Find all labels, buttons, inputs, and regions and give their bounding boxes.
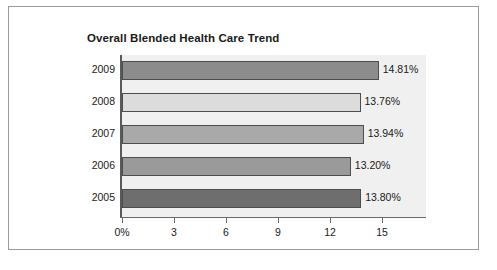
- bar-value-label: 13.80%: [365, 191, 401, 203]
- bar-value-label: 13.20%: [355, 159, 391, 171]
- x-tick-label: 15: [367, 226, 397, 238]
- x-tick-mark: [174, 217, 175, 223]
- bar: [122, 157, 351, 176]
- x-tick-label: 12: [315, 226, 345, 238]
- bar-row: 200513.80%: [9, 183, 478, 215]
- bar-row: 200813.76%: [9, 87, 478, 119]
- x-tick-label: 3: [159, 226, 189, 238]
- x-tick-mark: [330, 217, 331, 223]
- bar: [122, 125, 364, 144]
- category-label: 2009: [49, 63, 115, 75]
- x-tick-mark: [382, 217, 383, 223]
- bar-row: 200713.94%: [9, 119, 478, 151]
- bar-value-label: 13.94%: [368, 127, 404, 139]
- x-tick-label: 0%: [107, 226, 137, 238]
- chart-screenshot: Overall Blended Health Care Trend 200914…: [0, 0, 497, 270]
- bar-row: 200613.20%: [9, 151, 478, 183]
- bar: [122, 93, 361, 112]
- x-tick-label: 6: [211, 226, 241, 238]
- bar-value-label: 14.81%: [383, 63, 419, 75]
- bar-row: 200914.81%: [9, 55, 478, 87]
- category-label: 2008: [49, 95, 115, 107]
- x-axis-line: [120, 217, 426, 218]
- figure-frame: Overall Blended Health Care Trend 200914…: [8, 6, 479, 250]
- bar: [122, 61, 379, 80]
- x-tick-mark: [122, 217, 123, 223]
- bar-value-label: 13.76%: [365, 95, 401, 107]
- x-tick-mark: [278, 217, 279, 223]
- x-tick-mark: [226, 217, 227, 223]
- category-label: 2007: [49, 127, 115, 139]
- x-tick-label: 9: [263, 226, 293, 238]
- category-label: 2005: [49, 191, 115, 203]
- category-label: 2006: [49, 159, 115, 171]
- bar: [122, 189, 361, 208]
- chart-title: Overall Blended Health Care Trend: [87, 32, 279, 44]
